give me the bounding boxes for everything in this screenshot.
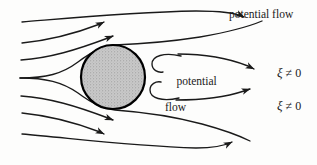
label-potential-flow-center: potential flow <box>165 62 217 139</box>
xi-relation-upper: ≠ 0 <box>283 66 302 80</box>
streamline-upper-outer-3 <box>22 11 244 22</box>
label-vorticity-lower: ξ ≠ 0 <box>265 86 301 127</box>
cylinder-body <box>81 45 145 109</box>
xi-relation-lower: ≠ 0 <box>283 99 302 113</box>
streamline-lower-outer-2 <box>22 113 104 134</box>
streamline-upper-outer-1 <box>22 22 104 43</box>
label-potential-flow-center-line2: flow <box>165 101 217 114</box>
flow-past-cylinder-diagram: potential flow potential flow ξ ≠ 0 ξ ≠ … <box>0 0 317 165</box>
label-potential-flow-top: potential flow <box>229 8 293 21</box>
label-potential-flow-center-line1: potential <box>177 75 217 87</box>
